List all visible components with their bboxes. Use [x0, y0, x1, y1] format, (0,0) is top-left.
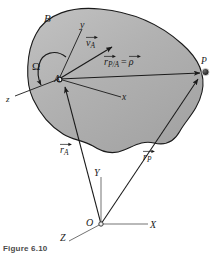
velocity-a-symbol: v [86, 38, 90, 48]
rho-symbol: ρ [129, 57, 134, 67]
equals-sign: = [119, 56, 129, 67]
velocity-a-glyph: v [86, 37, 90, 48]
point-a-label: A [54, 74, 60, 84]
r-p-symbol: r [143, 152, 147, 162]
figure-container: B y Ω A z x P vA rP/A=ρ rA rP Y O X Z Fi… [0, 0, 219, 253]
rho-glyph: ρ [129, 56, 134, 67]
point-o-marker [99, 222, 103, 226]
r-a-symbol: r [60, 145, 64, 155]
r-p-label: rP [143, 152, 151, 163]
r-a-label: rA [60, 145, 68, 156]
r-p-over-a-equation: rP/A=ρ [104, 57, 133, 68]
r-p-glyph: r [143, 151, 147, 162]
point-p-marker [202, 68, 209, 75]
point-o-label: O [86, 218, 93, 228]
body-axis-x-label: x [122, 93, 126, 103]
global-axis-z-label: Z [60, 233, 66, 243]
r-p-over-a-symbol: r [104, 57, 108, 67]
point-p-label: P [201, 57, 207, 67]
omega-label: Ω [32, 61, 40, 72]
figure-caption: Figure 6.10 [3, 244, 47, 253]
body-label: B [44, 13, 51, 24]
global-axis-x-label: X [150, 220, 156, 230]
r-a-subscript: A [64, 148, 69, 157]
velocity-a-label: vA [86, 38, 95, 49]
global-axis-y-label: Y [94, 168, 100, 178]
velocity-a-subscript: A [90, 41, 95, 50]
body-axis-y-label: y [80, 20, 84, 30]
r-p-over-a-glyph: r [104, 56, 108, 67]
r-p-over-a-subscript: P/A [108, 60, 119, 69]
r-a-glyph: r [60, 144, 64, 155]
diagram-canvas [0, 0, 219, 253]
r-p-subscript: P [147, 155, 152, 164]
global-axis-z-line [69, 224, 101, 241]
body-axis-z-label: z [6, 95, 10, 104]
